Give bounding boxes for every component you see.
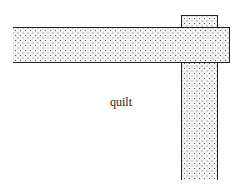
horizontal-quilt-strip: [13, 27, 230, 63]
quilt-label: quilt: [110, 95, 132, 110]
